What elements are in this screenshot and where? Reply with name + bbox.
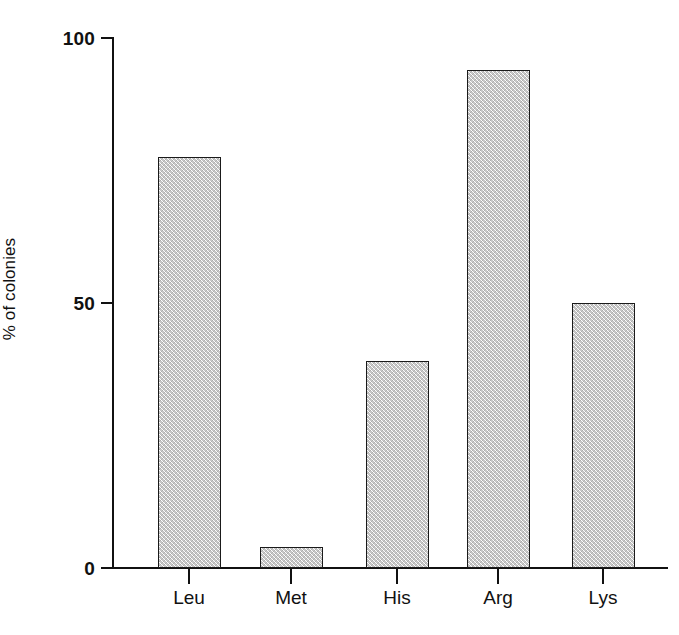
y-axis-tick-0 [101,567,113,569]
bar-chart-figure: % of colonies 100 50 0 Leu Met His Arg L… [0,0,679,635]
y-axis-tick-label-100: 100 [63,29,95,48]
x-axis-tick-label-met: Met [275,588,307,607]
y-axis-tick-label-50: 50 [73,294,95,313]
x-axis-tick-his [396,569,398,584]
bar-arg [467,70,530,568]
y-axis-tick-label-0: 0 [84,559,95,578]
bar-lys [572,303,635,568]
x-axis-tick-label-arg: Arg [483,588,513,607]
bar-his [366,361,429,568]
x-axis-tick-met [290,569,292,584]
x-axis-tick-label-lys: Lys [589,588,618,607]
y-axis-tick-50 [101,302,113,304]
x-axis-tick-arg [497,569,499,584]
x-axis-tick-leu [188,569,190,584]
bar-leu [158,157,221,568]
x-axis-tick-lys [602,569,604,584]
y-axis-title: % of colonies [0,238,20,368]
bar-met [260,547,323,568]
y-axis-tick-100 [101,37,113,39]
x-axis-tick-label-his: His [383,588,410,607]
x-axis-tick-label-leu: Leu [173,588,205,607]
